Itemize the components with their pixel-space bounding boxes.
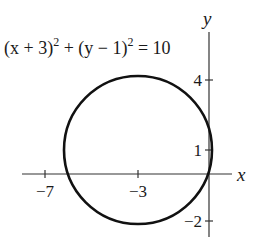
equation-part2: + (y − 1) [59,38,127,59]
x-tick-label-minus7: −7 [36,182,55,201]
equation-part1: (x + 3) [4,38,53,59]
equation-label: (x + 3)2 + (y − 1)2 = 10 [4,35,171,59]
x-axis-label: x [236,164,246,185]
x-tick-label-minus3: −3 [129,182,147,201]
equation-rhs: = 10 [133,38,170,58]
y-axis-label: y [201,8,212,29]
y-tick-label-4: 4 [194,71,203,90]
y-tick-label-minus2: −2 [184,212,202,231]
circle-curve [64,76,212,224]
y-tick-label-1: 1 [194,141,203,160]
circle-graph: y x −7 −3 4 1 −2 (x + 3)2 + (y − 1)2 = 1… [0,0,253,237]
